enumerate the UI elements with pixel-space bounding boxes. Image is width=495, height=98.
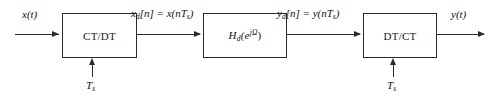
arrowhead-clock-left [89, 58, 95, 65]
block-hd-label-main: H [229, 29, 237, 41]
label-input-discrete-signal: xd[n] = x(nTs) [131, 8, 193, 19]
connector-dtct-to-output [437, 34, 484, 35]
block-dt-ct-label: DT/CT [384, 30, 417, 42]
label-ts-right-sub: s [393, 84, 396, 93]
block-hd-label-sub: d [237, 34, 241, 43]
label-output-dt-bracket: [n] = y(n [286, 7, 327, 19]
label-output-dt-close: ) [336, 7, 340, 19]
label-input-dt-bracket: [n] = x(n [140, 7, 181, 19]
block-hd-label-exponent: jΩ [250, 28, 258, 37]
block-ct-dt-label: CT/DT [83, 30, 116, 42]
label-output-dt-period-sub: s [333, 12, 336, 21]
arrowhead-into-hd [194, 31, 201, 37]
arrowhead-into-ctdt [52, 31, 59, 37]
label-output-discrete-signal: yd[n] = y(nTs) [277, 8, 339, 19]
label-input-dt-period-sub: s [187, 12, 190, 21]
label-output-dt-sub: d [282, 12, 286, 21]
label-input-ct-arg: (t) [27, 8, 37, 20]
label-sampling-period-left: Ts [86, 80, 95, 91]
arrowhead-clock-right [390, 58, 396, 65]
block-hd-label-close: ) [258, 29, 262, 41]
arrowhead-output [478, 31, 485, 37]
label-output-dt-period: T [327, 7, 333, 19]
label-input-dt-sub: d [136, 12, 140, 21]
block-hd: Hd(ejΩ) [203, 13, 287, 58]
block-dt-ct: DT/CT [363, 13, 437, 58]
connector-ctdt-to-hd [137, 34, 200, 35]
label-input-dt-close: ) [190, 7, 194, 19]
block-hd-label: Hd(ejΩ) [229, 30, 262, 41]
block-hd-label-open: (e [241, 29, 250, 41]
label-sampling-period-right: Ts [387, 80, 396, 91]
block-ct-dt: CT/DT [62, 13, 137, 58]
label-input-dt-period: T [181, 7, 187, 19]
arrowhead-into-dtct [354, 31, 361, 37]
label-input-continuous-signal: x(t) [22, 9, 37, 20]
label-output-ct-arg: (t) [456, 8, 466, 20]
block-diagram: CT/DT Hd(ejΩ) DT/CT x(t) y(t) xd[n] = x(… [0, 0, 495, 98]
label-ts-left-sub: s [92, 84, 95, 93]
connector-hd-to-dtct [287, 34, 360, 35]
label-output-continuous-signal: y(t) [451, 9, 466, 20]
